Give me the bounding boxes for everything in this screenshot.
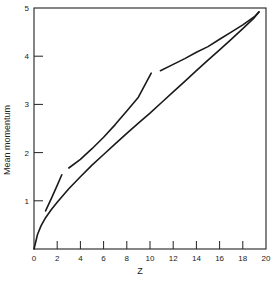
y-axis-label: Mean momentum <box>2 105 12 175</box>
x-tick-label: 16 <box>215 254 224 263</box>
x-tick-label: 0 <box>32 254 37 263</box>
x-tick-label: 14 <box>192 254 201 263</box>
x-tick-label: 12 <box>169 254 178 263</box>
x-tick-label: 6 <box>101 254 106 263</box>
x-axis-ticks: 02468101214161820 <box>32 241 271 263</box>
y-tick-label: 4 <box>25 52 30 61</box>
plot-frame <box>34 8 266 249</box>
x-tick-label: 10 <box>146 254 155 263</box>
x-tick-label: 18 <box>238 254 247 263</box>
segment-3-line <box>160 12 259 71</box>
main-curve-line <box>34 12 259 249</box>
segment-2-line <box>69 73 151 168</box>
chart: 02468101214161820 12345 Z Mean momentum <box>0 0 274 282</box>
x-tick-label: 8 <box>125 254 130 263</box>
y-tick-label: 1 <box>25 197 30 206</box>
y-tick-label: 2 <box>25 149 30 158</box>
data-curves <box>34 12 259 249</box>
x-axis-label: Z <box>137 266 143 276</box>
x-tick-label: 20 <box>262 254 271 263</box>
y-tick-label: 5 <box>25 4 30 13</box>
y-tick-label: 3 <box>25 100 30 109</box>
x-tick-label: 2 <box>55 254 60 263</box>
x-tick-label: 4 <box>78 254 83 263</box>
